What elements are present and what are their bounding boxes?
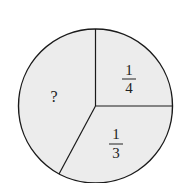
numerator: 1 xyxy=(125,62,133,78)
sector-unknown-label: ? xyxy=(50,88,57,105)
numerator: 1 xyxy=(112,126,120,142)
denominator: 3 xyxy=(112,145,120,161)
fraction-pie-diagram: 1 4 1 3 ? xyxy=(0,0,182,183)
denominator: 4 xyxy=(125,80,133,96)
